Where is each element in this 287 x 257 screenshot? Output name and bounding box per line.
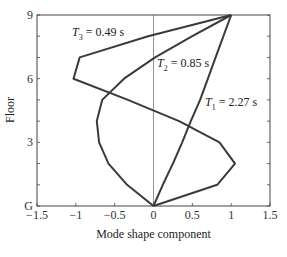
x-axis-title: Mode shape component [96,227,211,241]
annotation-mode-3: T3 = 0.49 s [72,25,124,42]
y-tick-label: 6 [27,72,33,86]
x-tick-label: −0.5 [104,208,126,222]
mode-shape-chart: −1.5−1−0.500.511.5G369 T3 = 0.49 s T2 = … [0,0,287,257]
y-tick-label: 9 [27,8,33,22]
annotation-mode-1: T1 = 2.27 s [205,95,257,112]
y-tick-label: 3 [27,135,33,149]
annotation-mode-2: T2 = 0.85 s [157,56,209,73]
y-tick-label: G [24,199,33,213]
x-tick-label: −1 [69,208,82,222]
mode-1-line [154,15,232,206]
x-tick-label: 0.5 [185,208,200,222]
y-axis-title: Floor [3,97,17,123]
x-tick-label: 1 [228,208,234,222]
x-tick-label: 0 [151,208,157,222]
axis-ticks: −1.5−1−0.500.511.5G369 [24,8,277,222]
x-tick-label: 1.5 [263,208,278,222]
